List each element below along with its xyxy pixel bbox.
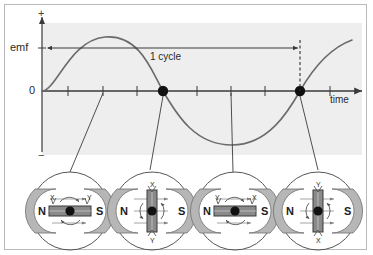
generator-4-north-label: N <box>286 206 294 217</box>
generators-layer <box>0 0 373 255</box>
generator-4-terminal-top: Y <box>316 181 321 188</box>
rotation-arrow <box>226 220 245 225</box>
generator-1-north-label: N <box>38 206 46 217</box>
generator-4-terminal-bottom: X <box>316 237 321 244</box>
y-axis-positive-label: + <box>38 8 44 19</box>
generator-2-terminal-bottom: Y <box>150 237 155 244</box>
generator-3-terminal-left: Y <box>215 194 220 201</box>
y-axis-emf-label: emf <box>10 42 28 53</box>
rotation-arrow <box>60 197 79 202</box>
generator-2-south-label: S <box>178 206 185 217</box>
rotation-axis <box>230 206 239 215</box>
generator-4-south-label: S <box>344 206 351 217</box>
y-axis-zero-label: 0 <box>29 85 35 96</box>
rotation-arrow <box>61 220 80 225</box>
generator-3-terminal-right: X <box>252 194 257 201</box>
generator-1-terminal-right: Y <box>87 194 92 201</box>
generator-2-terminal-top: X <box>150 181 155 188</box>
generator-1-south-label: S <box>96 206 103 217</box>
x-axis-time-label: time <box>330 95 349 105</box>
generator-3-south-label: S <box>261 206 268 217</box>
one-cycle-label: 1 cycle <box>150 52 181 62</box>
rotation-axis <box>313 206 322 215</box>
rotation-axis <box>65 206 74 215</box>
generator-2-north-label: N <box>120 206 128 217</box>
generator-3-north-label: N <box>203 206 211 217</box>
rotation-arrow <box>225 197 244 202</box>
physics-diagram-figure: + emf 0 − time 1 cycle N S X Y N S X Y N… <box>0 0 373 255</box>
generator-1-terminal-left: X <box>50 194 55 201</box>
y-axis-negative-label: − <box>38 150 44 161</box>
rotation-axis <box>147 206 156 215</box>
